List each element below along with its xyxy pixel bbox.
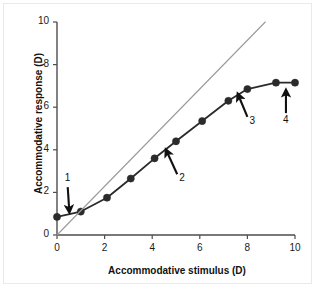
x-tick-label: 2 — [93, 242, 117, 253]
data-point-marker — [199, 117, 206, 124]
annotation-arrow-1 — [68, 187, 70, 212]
y-tick-label: 0 — [25, 228, 49, 239]
data-point-marker — [291, 79, 298, 86]
data-point-marker — [53, 213, 60, 220]
x-axis-title: Accommodative stimulus (D) — [57, 265, 297, 276]
x-tick-label: 8 — [235, 242, 259, 253]
arrow-line — [68, 187, 70, 212]
data-point-marker — [77, 208, 84, 215]
data-point-marker — [244, 85, 251, 92]
arrow-line — [166, 150, 177, 174]
annotation-label-2: 2 — [179, 172, 185, 183]
data-point-marker — [172, 138, 179, 145]
data-point-marker — [272, 79, 279, 86]
data-point-marker — [103, 194, 110, 201]
x-tick-label: 4 — [140, 242, 164, 253]
annotation-label-3: 3 — [249, 115, 255, 126]
annotation-arrow-2 — [166, 150, 177, 174]
data-point-marker — [127, 175, 134, 182]
response-curve-path — [57, 83, 295, 217]
arrow-line — [238, 94, 248, 117]
reference-line-path — [57, 22, 265, 235]
annotation-label-1: 1 — [65, 172, 71, 183]
data-point-marker — [151, 155, 158, 162]
chart-page: 02468100246810 1234 Accommodative stimul… — [0, 0, 317, 289]
y-axis-title: Accommodative response (D) — [33, 24, 44, 224]
annotation-arrow-3 — [238, 94, 248, 117]
x-tick-label: 0 — [45, 242, 69, 253]
x-tick-label: 6 — [188, 242, 212, 253]
data-point-marker — [225, 97, 232, 104]
x-tick-label: 10 — [283, 242, 307, 253]
annotation-label-4: 4 — [283, 114, 289, 125]
